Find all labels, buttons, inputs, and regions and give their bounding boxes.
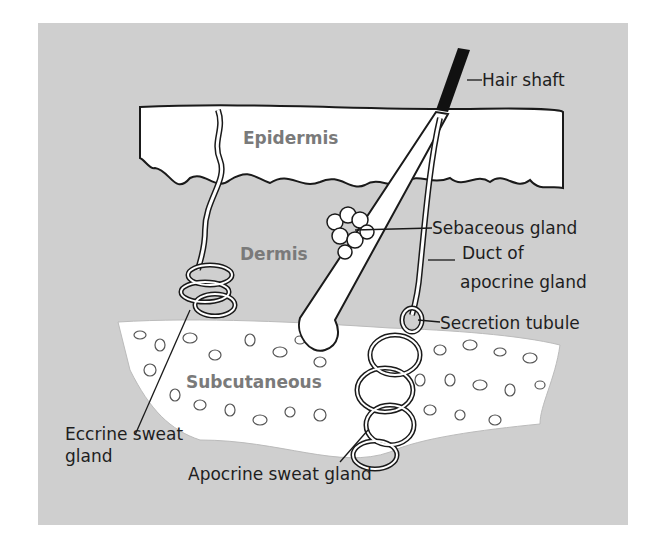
label-secretion-tubule: Secretion tubule <box>440 313 580 333</box>
label-hair-shaft: Hair shaft <box>482 70 565 90</box>
label-eccrine-line1: Eccrine sweat <box>65 424 183 444</box>
label-duct-line2: apocrine gland <box>460 272 587 292</box>
label-sebaceous-gland: Sebaceous gland <box>432 218 577 238</box>
region-label-dermis: Dermis <box>240 244 308 264</box>
hair-shaft <box>436 48 470 112</box>
region-label-epidermis: Epidermis <box>243 128 338 148</box>
label-eccrine-line2: gland <box>65 446 113 466</box>
epidermis-layer <box>140 105 563 188</box>
label-duct-line1: Duct of <box>462 243 524 263</box>
label-apocrine-sweat-gland: Apocrine sweat gland <box>188 464 372 484</box>
region-label-subcutaneous: Subcutaneous <box>186 372 322 392</box>
